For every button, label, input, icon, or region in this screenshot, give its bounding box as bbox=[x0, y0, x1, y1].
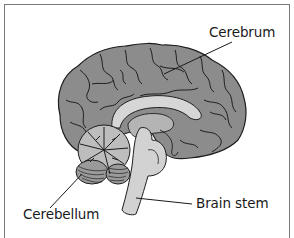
cerebellum-leader-line bbox=[50, 174, 82, 208]
label-brain-stem: Brain stem bbox=[196, 195, 268, 211]
label-cerebellum: Cerebellum bbox=[23, 206, 99, 222]
cerebellum-shape bbox=[76, 125, 130, 184]
brain-stem-leader-line bbox=[136, 198, 192, 204]
label-cerebrum: Cerebrum bbox=[209, 24, 275, 40]
